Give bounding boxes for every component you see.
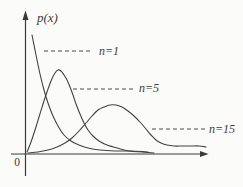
distribution-density-figure: p(x) 0 n=1 n=5 n=15 [0, 0, 243, 187]
curve-label-n15: n=15 [209, 122, 235, 136]
density-curve-n1 [32, 35, 148, 152]
y-axis-label: p(x) [36, 10, 58, 25]
origin-label: 0 [14, 156, 20, 168]
curve-label-n1: n=1 [99, 44, 119, 58]
y-axis-arrowhead [23, 11, 29, 21]
density-curve-n15 [28, 105, 206, 153]
x-axis-arrowhead [200, 151, 209, 157]
density-curve-n5 [27, 70, 154, 153]
plot-canvas: p(x) 0 n=1 n=5 n=15 [0, 0, 243, 187]
curve-label-n5: n=5 [139, 81, 159, 95]
curves-layer [11, 11, 209, 177]
